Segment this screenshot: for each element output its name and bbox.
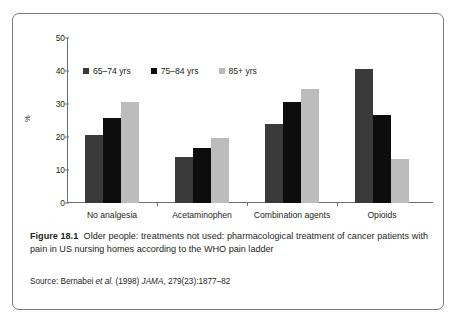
y-tick-mark [65,203,69,204]
bar-group [337,38,427,203]
y-tick-label: 50 [43,33,65,43]
y-tick-label: 10 [43,165,65,175]
bar [373,115,391,203]
x-category-label: Opioids [367,210,396,220]
bar [301,89,319,203]
y-axis-ticks: 01020304050 [37,14,65,210]
x-tick-mark [337,202,338,206]
bar-group [157,38,247,203]
y-tick-label: 0 [43,198,65,208]
legend-item: 65–74 yrs [83,66,131,76]
legend-label: 85+ yrs [229,66,257,76]
source-mid: (1998) [113,277,141,286]
y-tick-mark [65,137,69,138]
source-prefix: Source: Bernabei [30,277,96,286]
bar [193,148,211,203]
legend-swatch-icon [151,68,157,74]
x-category-label: No analgesia [87,210,137,220]
bar [85,135,103,203]
bar [103,118,121,203]
bar [211,138,229,203]
bar [355,69,373,203]
source-suffix: , 279(23):1877–82 [163,277,230,286]
y-tick-mark [65,71,69,72]
y-tick-mark [65,170,69,171]
x-category-label: Acetaminophen [172,210,232,220]
figure-label: Figure 18.1 [30,231,78,241]
bar-group [67,38,157,203]
bar [121,102,139,203]
figure-caption-text: Older people: treatments not used: pharm… [30,231,428,254]
bar-chart: % 01020304050 No analgesiaAcetaminophenC… [13,14,445,210]
source-journal: JAMA [142,277,164,286]
bar [283,102,301,203]
y-tick-label: 40 [43,66,65,76]
figure-box: % 01020304050 No analgesiaAcetaminophenC… [12,13,444,310]
bar [265,124,283,203]
x-tick-mark [157,202,158,206]
plot-area [67,38,427,203]
legend-swatch-icon [83,68,89,74]
figure-source: Source: Bernabei et al. (1998) JAMA, 279… [30,277,428,286]
legend-item: 85+ yrs [219,66,257,76]
bar [391,159,409,203]
y-axis-label: % [23,115,32,122]
legend-item: 75–84 yrs [151,66,199,76]
x-tick-mark [247,202,248,206]
y-tick-mark [65,104,69,105]
chart-legend: 65–74 yrs75–84 yrs85+ yrs [83,66,257,76]
y-tick-mark [65,38,69,39]
bar [175,157,193,203]
y-tick-label: 20 [43,132,65,142]
legend-label: 65–74 yrs [93,66,131,76]
legend-swatch-icon [219,68,225,74]
legend-label: 75–84 yrs [161,66,199,76]
figure-caption: Figure 18.1 Older people: treatments not… [30,230,428,255]
x-category-label: Combination agents [254,210,330,220]
bar-group [247,38,337,203]
source-etal: et al. [96,277,114,286]
y-tick-label: 30 [43,99,65,109]
